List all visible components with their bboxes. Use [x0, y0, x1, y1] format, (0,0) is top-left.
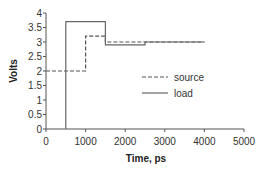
x-tick-label: 0 — [43, 136, 49, 147]
y-tick-label: 2 — [36, 66, 42, 77]
y-axis-title: Volts — [8, 59, 19, 83]
axes: 00.511.522.533.54010002000300040005000 — [28, 8, 255, 148]
y-tick-label: 4 — [36, 8, 42, 19]
x-tick-label: 4000 — [193, 136, 216, 147]
x-axis-title: Time, ps — [126, 153, 167, 164]
step-response-chart: 00.511.522.533.54010002000300040005000 s… — [0, 0, 266, 172]
legend-label-load: load — [174, 88, 193, 99]
y-tick-label: 1.5 — [28, 80, 42, 91]
y-tick-label: 0.5 — [28, 109, 42, 120]
legend: sourceload — [142, 72, 204, 99]
y-tick-label: 3 — [36, 37, 42, 48]
legend-label-source: source — [174, 72, 204, 83]
y-tick-label: 2.5 — [28, 51, 42, 62]
y-tick-label: 1 — [36, 95, 42, 106]
x-tick-label: 1000 — [74, 136, 97, 147]
x-tick-label: 3000 — [154, 136, 177, 147]
x-tick-label: 2000 — [114, 136, 137, 147]
x-tick-label: 5000 — [233, 136, 256, 147]
y-tick-label: 3.5 — [28, 22, 42, 33]
y-tick-label: 0 — [36, 124, 42, 135]
